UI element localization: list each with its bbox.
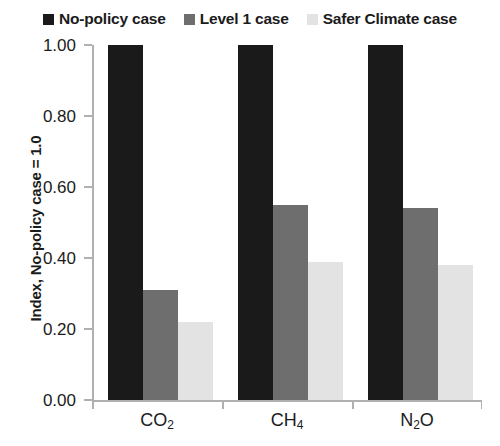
y-axis-title: Index, No-policy case = 1.0	[27, 79, 44, 379]
bar-group	[222, 45, 352, 400]
x-axis-category-separator	[481, 400, 483, 409]
y-axis-tick: 0.60	[84, 186, 92, 188]
legend-swatch-icon	[43, 14, 54, 25]
y-axis-tick-label: 0.60	[43, 179, 76, 196]
x-axis-category-label: N2O	[352, 411, 482, 429]
bar	[438, 265, 473, 400]
legend-item-level-1-case: Level 1 case	[184, 11, 289, 27]
x-axis-line	[92, 400, 482, 402]
x-axis-category-label: CH4	[222, 411, 352, 429]
y-axis-tick: 0.00	[84, 399, 92, 401]
bar	[143, 290, 178, 400]
legend-item-safer-climate-case: Safer Climate case	[307, 11, 457, 27]
x-axis-category-separator	[352, 400, 354, 409]
y-axis-tick-label: 0.40	[43, 250, 76, 267]
y-axis-tick-label: 0.80	[43, 108, 76, 125]
legend-item-no-policy-case: No-policy case	[43, 11, 166, 27]
bar	[273, 205, 308, 400]
x-axis-category-separator	[92, 400, 94, 409]
y-axis-tick: 0.80	[84, 115, 92, 117]
bar	[368, 45, 403, 400]
bar-chart: No-policy case Level 1 case Safer Climat…	[0, 0, 500, 446]
x-axis-category-separator	[222, 400, 224, 409]
y-axis-tick: 1.00	[84, 44, 92, 46]
y-axis-tick: 0.40	[84, 257, 92, 259]
legend-swatch-icon	[184, 14, 195, 25]
y-axis-tick-label: 0.00	[43, 392, 76, 409]
bar	[108, 45, 143, 400]
bar-group	[92, 45, 222, 400]
y-axis-tick-label: 0.20	[43, 321, 76, 338]
legend-label: No-policy case	[59, 11, 166, 27]
legend-label: Safer Climate case	[323, 11, 457, 27]
legend-label: Level 1 case	[200, 11, 289, 27]
chart-legend: No-policy case Level 1 case Safer Climat…	[0, 6, 500, 32]
x-axis-category-label: CO2	[92, 411, 222, 429]
bar	[308, 262, 343, 400]
y-axis-tick-label: 1.00	[43, 37, 76, 54]
bar	[238, 45, 273, 400]
bar	[178, 322, 213, 400]
plot-area: 0.000.200.400.600.801.00 CO2CH4N2O	[92, 45, 482, 400]
legend-swatch-icon	[307, 14, 318, 25]
bar	[403, 208, 438, 400]
y-axis-tick: 0.20	[84, 328, 92, 330]
bar-group	[352, 45, 482, 400]
